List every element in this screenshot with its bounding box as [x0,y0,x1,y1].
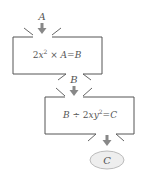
down-arrow-icon [38,23,47,34]
mid-label-b: B [69,74,77,85]
flow-diagram: A 2x2 × A=B B B ÷ 2xy2=C [0,0,144,183]
process-box-2: B ÷ 2xy2=C [45,97,134,134]
input-label-a: A [37,11,45,22]
output-label-c: C [103,155,111,166]
box2-expression: B ÷ 2xy2=C [62,108,117,120]
box1-expression: 2x2 × A=B [33,48,82,60]
down-arrow-icon [70,86,79,96]
output-ellipse: C [90,151,124,169]
process-box-1: 2x2 × A=B [13,37,102,74]
down-arrow-icon [103,135,112,146]
